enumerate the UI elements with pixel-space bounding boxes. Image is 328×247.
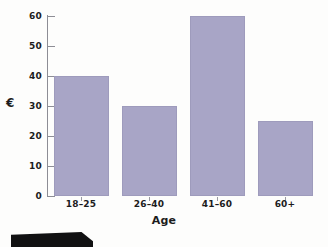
- y-axis-tick-label: 20: [18, 132, 42, 141]
- x-axis-tick-label: 26–40: [115, 200, 183, 209]
- bar: [122, 106, 177, 196]
- y-axis-tick-label: 60: [18, 12, 42, 21]
- y-axis-tick-label: 50: [18, 42, 42, 51]
- x-axis-tick-label: 18–25: [47, 200, 115, 209]
- y-axis-tick-label: 30: [18, 102, 42, 111]
- plot-area: [47, 16, 319, 196]
- x-axis-tick-label: 60+: [251, 200, 319, 209]
- bar: [190, 16, 245, 196]
- x-axis-title: Age: [0, 214, 328, 227]
- page-edge-artifact-icon: [11, 232, 93, 247]
- y-axis-tick-label: 0: [18, 192, 42, 201]
- bar: [54, 76, 109, 196]
- x-axis-tick-label: 41–60: [183, 200, 251, 209]
- chart-figure: € 0102030405060 18–2526–4041–6060+ Age: [0, 0, 328, 247]
- y-axis-tick-label: 40: [18, 72, 42, 81]
- bar: [258, 121, 313, 196]
- y-axis-tick: [48, 196, 55, 197]
- y-axis-tick-label: 10: [18, 162, 42, 171]
- y-axis-title: €: [6, 96, 14, 110]
